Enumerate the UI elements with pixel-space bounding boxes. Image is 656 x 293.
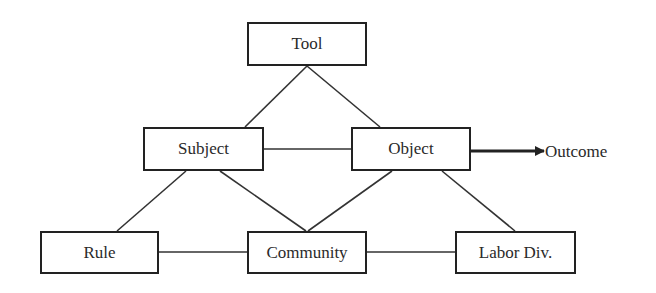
node-labor-division-label: Labor Div. [479, 243, 553, 263]
outcome-label: Outcome [545, 142, 607, 162]
node-subject-label: Subject [178, 139, 229, 159]
node-community: Community [247, 231, 367, 274]
edge-object-labor_div [442, 171, 515, 231]
node-tool-label: Tool [292, 34, 323, 54]
edge-object-community [308, 171, 392, 231]
node-subject: Subject [143, 127, 264, 171]
edge-tool-subject [245, 66, 307, 127]
edge-subject-rule [117, 171, 186, 231]
node-tool: Tool [247, 22, 367, 66]
node-rule-label: Rule [83, 243, 115, 263]
node-object-label: Object [388, 139, 433, 159]
node-rule: Rule [40, 231, 159, 274]
node-labor-division: Labor Div. [455, 231, 576, 274]
node-object: Object [351, 127, 471, 171]
node-community-label: Community [266, 243, 347, 263]
edge-subject-community [220, 171, 306, 231]
activity-system-diagram: Tool Subject Object Rule Community Labor… [0, 0, 656, 293]
edge-tool-object [307, 66, 380, 127]
